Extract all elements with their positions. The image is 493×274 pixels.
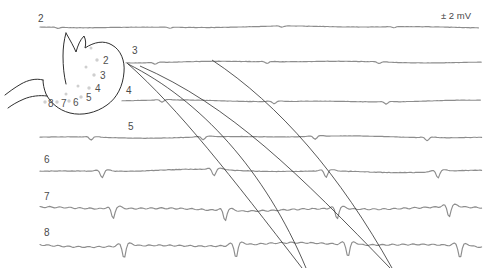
electrode-dot-6 (67, 99, 70, 102)
channel-label-2: 2 (38, 13, 44, 24)
signal-trace-channel-2 (40, 26, 478, 29)
electrode-dot-aux-a (90, 47, 93, 50)
electrode-site-label-7: 7 (61, 98, 67, 109)
electrode-dot-aux-c (77, 85, 80, 88)
electrode-site-label-5: 5 (86, 92, 92, 103)
electrode-site-label-4: 4 (95, 83, 101, 94)
egg-figure-panel: 2345678 2345678 ± 2 mV (0, 0, 493, 274)
propagation-line-wavefront-1 (127, 63, 302, 268)
electrode-dot-4 (87, 86, 90, 89)
channel-label-4: 4 (126, 85, 132, 96)
channel-labels: 2345678 (38, 13, 138, 238)
propagation-line-wavefront-3 (128, 64, 306, 268)
channel-label-6: 6 (44, 154, 50, 165)
electrode-site-label-2: 2 (103, 55, 109, 66)
stomach-diagram: 2345678 (5, 33, 124, 114)
scale-bar-label: ± 2 mV (441, 10, 472, 21)
signal-trace-channel-7 (40, 204, 482, 220)
duodenum-upper-outline (5, 79, 43, 95)
electrode-dot-7 (55, 100, 58, 103)
electrode-site-label-8: 8 (48, 98, 54, 109)
signal-trace-channel-4 (122, 99, 480, 104)
electrode-dot-5 (79, 95, 82, 98)
propagation-line-wavefront-4 (212, 60, 392, 268)
channel-label-3: 3 (132, 45, 138, 56)
electrode-site-label-6: 6 (73, 97, 79, 108)
channel-label-7: 7 (44, 191, 50, 202)
signal-trace-channel-8 (40, 242, 482, 257)
signal-trace-channel-5 (40, 136, 482, 141)
figure-canvas: 2345678 2345678 ± 2 mV (0, 0, 493, 274)
propagation-line-wavefront-2 (140, 66, 390, 268)
channel-label-8: 8 (44, 227, 50, 238)
channel-label-5: 5 (128, 121, 134, 132)
signal-trace-channel-6 (40, 168, 482, 178)
electrode-dot-2 (95, 58, 98, 61)
electrode-dot-aux-b (85, 66, 88, 69)
signal-trace-channel-3 (126, 61, 481, 64)
electrode-dot-3 (92, 73, 95, 76)
electrode-dot-8 (43, 100, 46, 103)
propagation-lines (127, 60, 392, 268)
duodenum-lower-outline (8, 96, 47, 108)
esophagus-outline (63, 33, 66, 84)
electrode-dot-aux-d (65, 93, 68, 96)
electrode-site-label-3: 3 (100, 70, 106, 81)
stomach-outline (43, 33, 124, 114)
